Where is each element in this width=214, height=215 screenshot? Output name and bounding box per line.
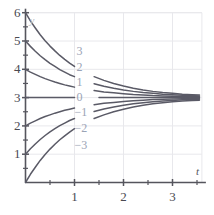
curve-constant-label: 2 bbox=[76, 61, 82, 73]
y-axis-label: y bbox=[30, 15, 35, 26]
y-tick-label: 6 bbox=[10, 6, 21, 19]
y-tick-label: 3 bbox=[10, 91, 21, 104]
plot-canvas bbox=[0, 0, 214, 215]
curve-constant-label: −1 bbox=[74, 106, 87, 118]
y-tick-label: 4 bbox=[10, 62, 21, 75]
y-tick-label: 1 bbox=[10, 147, 21, 160]
x-tick-label: 1 bbox=[69, 190, 81, 203]
curve-constant-label: 0 bbox=[76, 91, 82, 103]
x-axis-label: t bbox=[196, 166, 199, 177]
curve-constant-label: −2 bbox=[74, 122, 87, 134]
solution-curve bbox=[26, 108, 75, 126]
y-tick-label: 5 bbox=[10, 34, 21, 47]
x-tick-label: 2 bbox=[118, 190, 130, 203]
solution-curves bbox=[26, 13, 200, 183]
chart-figure: 123456123 3210−1−2−3 t y bbox=[0, 0, 214, 215]
x-tick-label: 3 bbox=[167, 190, 179, 203]
y-tick-label: 2 bbox=[10, 119, 21, 132]
curve-constant-label: 3 bbox=[76, 45, 82, 57]
solution-curve bbox=[26, 69, 75, 87]
curve-constant-label: −3 bbox=[74, 139, 87, 151]
curve-constant-label: 1 bbox=[76, 76, 82, 88]
solution-curve bbox=[26, 129, 75, 183]
